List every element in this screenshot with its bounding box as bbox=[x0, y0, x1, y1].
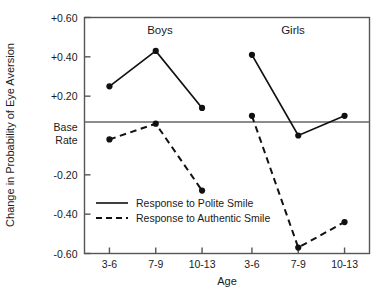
base-rate-label-line1: Base bbox=[54, 121, 78, 133]
y-tick-label: +0.40 bbox=[51, 51, 78, 63]
y-axis-title: Change in Probability of Eye Aversion bbox=[4, 43, 16, 227]
line-chart: +0.60+0.40+0.20BaseRate-0.20-0.40-0.60 3… bbox=[0, 0, 381, 291]
legend-label-authentic-smile: Response to Authentic Smile bbox=[136, 212, 270, 224]
y-tick-label: +0.20 bbox=[51, 90, 78, 102]
data-point bbox=[153, 121, 159, 127]
y-tick-label: -0.60 bbox=[54, 248, 78, 260]
y-tick-label: -0.40 bbox=[54, 208, 78, 220]
panel-title-boys: Boys bbox=[147, 24, 173, 36]
base-rate-label-line2: Rate bbox=[55, 134, 77, 146]
chart-figure: +0.60+0.40+0.20BaseRate-0.20-0.40-0.60 3… bbox=[0, 0, 381, 291]
data-point bbox=[341, 219, 347, 225]
x-tick-label: 10-13 bbox=[331, 258, 358, 270]
data-point bbox=[249, 113, 255, 119]
data-point bbox=[295, 245, 301, 251]
legend-label-polite-smile: Response to Polite Smile bbox=[136, 197, 253, 209]
data-point bbox=[153, 48, 159, 54]
data-point bbox=[106, 83, 112, 89]
data-point bbox=[199, 187, 205, 193]
x-tick-label: 10-13 bbox=[189, 258, 216, 270]
data-point bbox=[249, 52, 255, 58]
x-tick-label: 3-6 bbox=[102, 258, 117, 270]
data-point bbox=[341, 113, 347, 119]
x-tick-label: 7-9 bbox=[148, 258, 163, 270]
x-axis-title: Age bbox=[217, 275, 237, 287]
data-point bbox=[106, 136, 112, 142]
y-tick-label: +0.60 bbox=[51, 12, 78, 24]
data-point bbox=[199, 105, 205, 111]
y-tick-label: -0.20 bbox=[54, 169, 78, 181]
data-point bbox=[295, 132, 301, 138]
panel-title-girls: Girls bbox=[281, 24, 305, 36]
x-tick-label: 7-9 bbox=[291, 258, 306, 270]
x-tick-label: 3-6 bbox=[244, 258, 259, 270]
